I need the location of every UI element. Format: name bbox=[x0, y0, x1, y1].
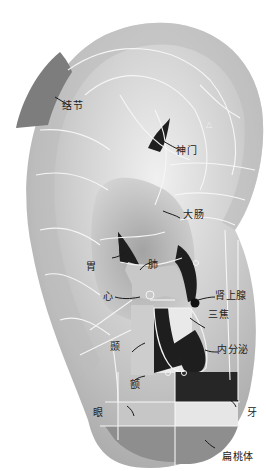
label-neifenmi: 内分泌 bbox=[217, 345, 249, 355]
label-wei: 胃 bbox=[86, 262, 97, 272]
label-ya: 牙 bbox=[247, 408, 258, 418]
label-shenshangxian: 肾上腺 bbox=[215, 291, 247, 301]
label-yan: 眼 bbox=[93, 408, 104, 418]
label-e: 额 bbox=[130, 380, 141, 390]
ear-diagram: △ bbox=[0, 0, 266, 471]
triangle-mark: △ bbox=[206, 120, 213, 129]
zone-yan-right bbox=[175, 402, 238, 426]
label-xin: 心 bbox=[103, 292, 114, 302]
zone-nie bbox=[131, 305, 154, 375]
label-fei: 肺 bbox=[148, 260, 159, 270]
label-jiejie: 结节 bbox=[62, 101, 83, 111]
zone-ya bbox=[175, 372, 238, 402]
label-sanjiao: 三焦 bbox=[208, 310, 229, 320]
label-biantaoti: 扁桃体 bbox=[222, 452, 254, 462]
label-shenmen: 神门 bbox=[176, 146, 197, 156]
label-dachang: 大肠 bbox=[183, 210, 204, 220]
zone-yan-left bbox=[118, 402, 175, 426]
label-nie: 颞 bbox=[110, 342, 121, 352]
